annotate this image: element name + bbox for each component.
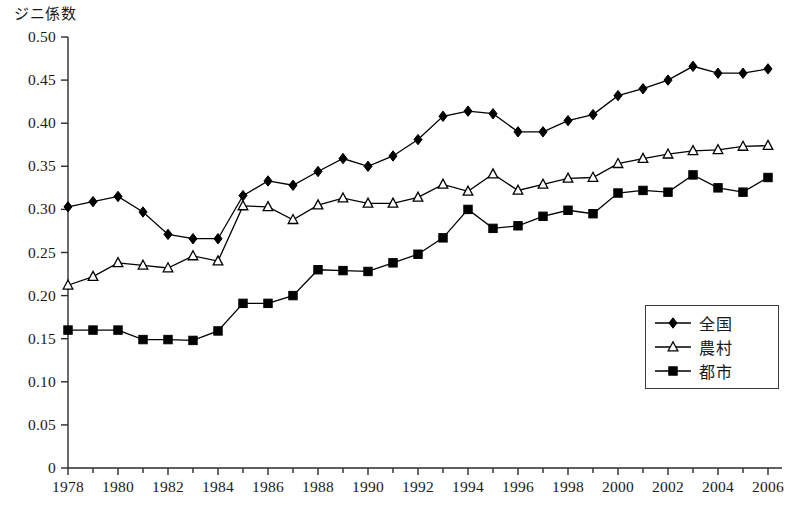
series-line [68, 146, 768, 286]
data-point-marker [539, 127, 547, 137]
data-point-marker [464, 106, 472, 116]
legend-marker-filled-diamond-icon [654, 313, 692, 333]
data-point-marker [264, 299, 272, 307]
legend-marker-open-triangle-icon [654, 337, 692, 357]
data-point-marker [763, 140, 773, 149]
data-point-marker [588, 172, 598, 181]
data-point-marker [114, 191, 122, 201]
data-point-marker [338, 193, 348, 202]
data-point-marker [714, 68, 722, 78]
data-point-marker [639, 84, 647, 94]
data-point-marker [664, 75, 672, 85]
data-point-marker [589, 109, 597, 119]
data-point-marker [289, 291, 297, 299]
data-point-marker [689, 61, 697, 71]
data-point-marker [288, 215, 298, 224]
data-point-marker [113, 258, 123, 267]
data-point-marker [539, 212, 547, 220]
data-point-marker [314, 166, 322, 176]
data-point-marker [739, 68, 747, 78]
data-point-marker [389, 151, 397, 161]
data-point-marker [464, 205, 472, 213]
data-point-marker [514, 222, 522, 230]
data-point-marker [188, 251, 198, 260]
y-tick-label: 0.30 [0, 200, 56, 218]
data-point-marker [488, 169, 498, 178]
legend-marker-filled-square-icon [654, 361, 692, 381]
data-point-marker [439, 234, 447, 242]
data-point-marker [589, 210, 597, 218]
data-point-marker [489, 224, 497, 232]
data-point-marker [314, 266, 322, 274]
data-point-marker [614, 189, 622, 197]
y-tick-label: 0 [0, 459, 56, 477]
y-tick-label: 0.25 [0, 244, 56, 262]
data-point-marker [364, 267, 372, 275]
data-point-marker [139, 335, 147, 343]
data-point-marker [189, 234, 197, 244]
data-series [63, 61, 773, 345]
data-point-marker [64, 326, 72, 334]
data-point-marker [264, 176, 272, 186]
data-point-marker [664, 188, 672, 196]
series-2 [63, 140, 773, 289]
data-point-marker [764, 173, 772, 181]
data-point-marker [64, 202, 72, 212]
legend-item-1[interactable]: 全国 [654, 311, 768, 335]
y-tick-label: 0.45 [0, 71, 56, 89]
data-point-marker [364, 161, 372, 171]
data-point-marker [239, 299, 247, 307]
data-point-marker [439, 111, 447, 121]
data-point-marker [714, 184, 722, 192]
y-tick-label: 0.35 [0, 157, 56, 175]
data-point-marker [564, 115, 572, 125]
data-point-marker [114, 326, 122, 334]
data-point-marker [414, 250, 422, 258]
data-point-marker [489, 109, 497, 119]
data-point-marker [764, 64, 772, 74]
data-point-marker [139, 207, 147, 217]
legend-item-2[interactable]: 農村 [654, 335, 768, 359]
legend-label: 農村 [699, 335, 733, 359]
data-point-marker [89, 326, 97, 334]
y-tick-label: 0.20 [0, 287, 56, 305]
y-tick-label: 0.10 [0, 373, 56, 391]
y-tick-label: 0.40 [0, 114, 56, 132]
y-tick-label: 0.15 [0, 330, 56, 348]
data-point-marker [739, 188, 747, 196]
data-point-marker [214, 327, 222, 335]
data-point-marker [339, 153, 347, 163]
data-point-marker [88, 271, 98, 280]
data-point-marker [189, 336, 197, 344]
x-tick-label: 2006 [738, 478, 793, 496]
data-point-marker [614, 90, 622, 100]
legend-label: 全国 [699, 311, 733, 335]
legend-item-3[interactable]: 都市 [654, 359, 768, 383]
data-point-marker [289, 180, 297, 190]
data-point-marker [689, 171, 697, 179]
data-point-marker [514, 127, 522, 137]
data-point-marker [89, 196, 97, 206]
data-point-marker [564, 206, 572, 214]
data-point-marker [414, 134, 422, 144]
data-point-marker [164, 335, 172, 343]
legend-label: 都市 [699, 359, 733, 383]
data-point-marker [389, 259, 397, 267]
data-point-marker [639, 186, 647, 194]
y-tick-label: 0.50 [0, 28, 56, 46]
data-point-marker [339, 266, 347, 274]
gini-coefficient-line-chart: ジニ係数 0.500.450.400.350.300.250.200.150.1… [0, 0, 793, 512]
data-point-marker [438, 179, 448, 188]
series-line [68, 66, 768, 238]
y-tick-label: 0.05 [0, 416, 56, 434]
data-point-marker [413, 192, 423, 201]
legend: 全国農村都市 [645, 305, 779, 389]
data-point-marker [164, 229, 172, 239]
plot-area [0, 0, 793, 512]
